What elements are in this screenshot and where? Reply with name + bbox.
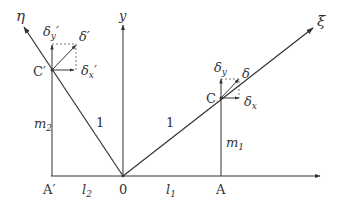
delta-prime-label: δ′	[79, 30, 90, 43]
delta-y-label: δy	[214, 61, 227, 77]
delta-x-label: δx	[244, 95, 257, 111]
eta-label: η	[16, 9, 25, 24]
delta-label: δ	[242, 67, 250, 80]
node-origin	[122, 175, 125, 178]
xi-label: ξ	[317, 14, 325, 29]
c-prime-label: C′	[33, 65, 46, 78]
c-label: C	[206, 92, 216, 105]
node-c	[220, 97, 223, 100]
xi-axis	[123, 28, 313, 176]
origin-label: 0	[119, 183, 127, 196]
delta-y-prime-label: δy′	[43, 25, 59, 41]
m1-label: m1	[226, 136, 244, 152]
l2-label: l2	[82, 183, 92, 199]
unit-label-right: 1	[166, 116, 174, 129]
l1-label: l1	[166, 183, 176, 199]
delta-prime-arrow	[52, 45, 76, 70]
m2-label: m2	[34, 117, 52, 133]
a-prime-label: A′	[43, 183, 55, 196]
y-label: y	[119, 9, 126, 22]
a-label: A	[216, 183, 225, 196]
node-c-prime	[51, 69, 54, 72]
delta-x-prime-label: δx′	[81, 64, 97, 80]
unit-label-left: 1	[96, 116, 104, 129]
eta-axis	[24, 27, 123, 176]
